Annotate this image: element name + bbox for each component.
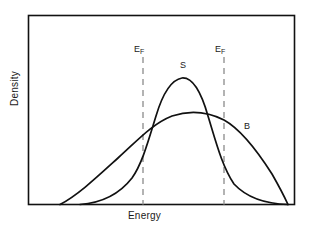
curve-label-b: B: [244, 121, 250, 131]
y-axis-label: Density: [9, 59, 20, 119]
plot-canvas: [0, 0, 312, 232]
x-axis-label: Energy: [128, 210, 161, 221]
fermi-level-label-right: EF: [215, 44, 225, 55]
fermi-level-label-left: EF: [134, 44, 144, 55]
fermi-subscript-left: F: [140, 48, 144, 55]
chart-figure: Density Energy S B EF EF: [0, 0, 312, 232]
fermi-subscript-right: F: [221, 48, 225, 55]
plot-frame: [29, 16, 295, 205]
curve-label-s: S: [180, 60, 186, 70]
